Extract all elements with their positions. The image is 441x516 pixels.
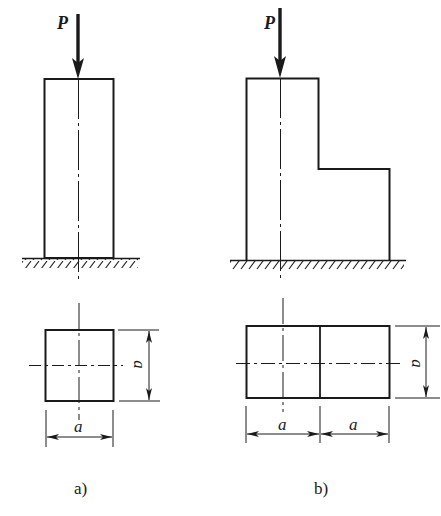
caption-a: a) bbox=[74, 480, 87, 497]
stepped-column-elevation bbox=[247, 79, 390, 261]
dimension-width-a-a bbox=[246, 406, 389, 443]
cross-section-square bbox=[29, 303, 123, 420]
section-width-label-b-1: a bbox=[278, 416, 287, 433]
force-arrow-icon bbox=[72, 14, 84, 79]
panel-b bbox=[230, 8, 440, 443]
panel-a bbox=[22, 14, 160, 447]
force-arrow-icon bbox=[274, 8, 286, 78]
force-label-a: P bbox=[57, 14, 68, 32]
section-height-label-a: a bbox=[131, 360, 148, 369]
section-height-label-b: a bbox=[409, 359, 426, 368]
force-label-b: P bbox=[264, 14, 275, 32]
ground-support bbox=[22, 259, 140, 269]
section-width-label-b-2: a bbox=[349, 416, 358, 433]
section-width-label-a: a bbox=[74, 418, 83, 435]
ground-support bbox=[230, 261, 406, 271]
caption-b: b) bbox=[314, 480, 328, 497]
cross-section-rectangle bbox=[236, 298, 401, 412]
figure-canvas bbox=[0, 0, 441, 516]
